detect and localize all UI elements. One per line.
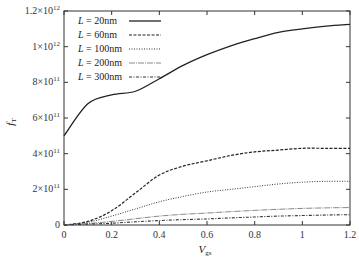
legend-label: L = 300nm <box>77 71 122 82</box>
y-tick-label: 0 <box>55 219 60 230</box>
y-axis-ticks: 02×10114×10116×10118×10111×10121.2×1012 <box>25 4 350 230</box>
series-line <box>64 148 350 225</box>
legend: L = 20nmL = 60nmL = 100nmL = 200nmL = 30… <box>77 15 161 82</box>
y-tick-label: 8×1011 <box>33 75 61 87</box>
legend-label: L = 20nm <box>77 15 117 26</box>
chart: 02×10114×10116×10118×10111×10121.2×1012 … <box>0 0 359 259</box>
series-lines <box>64 24 350 225</box>
y-axis-label: fT <box>4 118 18 126</box>
legend-label: L = 200nm <box>77 57 122 68</box>
y-tick-label: 6×1011 <box>33 111 61 123</box>
y-tick-label: 4×1011 <box>33 147 61 159</box>
x-tick-label: 0.8 <box>248 229 261 240</box>
x-tick-label: 0.2 <box>105 229 118 240</box>
legend-label: L = 60nm <box>77 29 117 40</box>
x-tick-label: 0.6 <box>201 229 214 240</box>
x-tick-label: 1 <box>300 229 305 240</box>
y-tick-label: 1×1012 <box>32 40 60 52</box>
x-axis-label: Vgs <box>199 243 212 257</box>
x-tick-label: 1.2 <box>344 229 357 240</box>
y-tick-label: 2×1011 <box>33 182 61 194</box>
x-tick-label: 0.4 <box>153 229 166 240</box>
legend-label: L = 100nm <box>77 43 122 54</box>
y-tick-label: 1.2×1012 <box>25 4 61 16</box>
series-line <box>64 181 350 225</box>
x-tick-label: 0 <box>62 229 67 240</box>
